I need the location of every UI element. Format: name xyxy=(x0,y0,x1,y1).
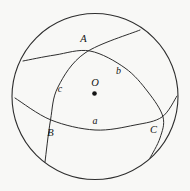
center-label-O: O xyxy=(91,77,99,88)
spherical-triangle-figure: A B C O a b c xyxy=(0,0,190,191)
arc-label-a: a xyxy=(93,115,98,126)
sphere-outline-circle xyxy=(12,14,178,180)
vertex-label-C: C xyxy=(150,124,158,135)
vertex-label-A: A xyxy=(79,33,87,44)
vertex-label-B: B xyxy=(47,127,54,138)
figure-canvas: A B C O a b c xyxy=(0,0,190,191)
great-circle-arc-c xyxy=(45,30,140,162)
arc-label-b: b xyxy=(116,65,121,76)
center-point-dot xyxy=(92,91,97,96)
arc-label-c: c xyxy=(58,83,63,94)
great-circle-arc-b xyxy=(23,50,164,158)
